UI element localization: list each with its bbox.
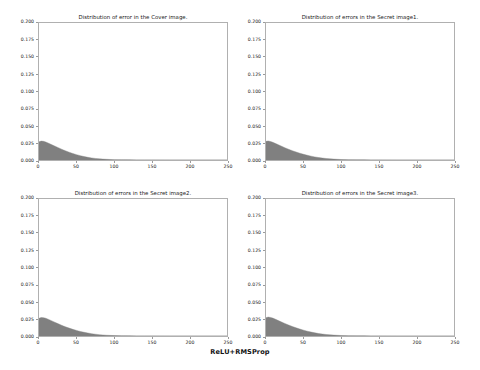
y-tick-label: 0.075: [237, 282, 261, 287]
y-tick-mark: [263, 302, 265, 303]
y-tick-mark: [263, 267, 265, 268]
x-tick-label: 200: [407, 340, 427, 345]
y-tick-mark: [263, 285, 265, 286]
figure-caption: ReLU+RMSProp: [0, 348, 480, 356]
x-tick-mark: [265, 337, 266, 339]
y-tick-label: 0.175: [237, 213, 261, 218]
y-tick-mark: [263, 250, 265, 251]
subplot-secret-image3: Distribution of errors in the Secret ima…: [0, 0, 480, 370]
x-tick-mark: [417, 337, 418, 339]
x-tick-label: 150: [369, 340, 389, 345]
x-tick-label: 50: [293, 340, 313, 345]
y-tick-mark: [263, 198, 265, 199]
x-tick-mark: [379, 337, 380, 339]
x-tick-mark: [341, 337, 342, 339]
plot-area: [265, 198, 455, 337]
y-tick-label: 0.025: [237, 317, 261, 322]
x-tick-label: 100: [331, 340, 351, 345]
y-tick-mark: [263, 232, 265, 233]
x-tick-mark: [455, 337, 456, 339]
y-tick-label: 0.100: [237, 265, 261, 270]
y-tick-label: 0.000: [237, 334, 261, 339]
figure-canvas: Distribution of error in the Cover image…: [0, 0, 480, 370]
x-tick-label: 250: [445, 340, 465, 345]
y-tick-label: 0.125: [237, 248, 261, 253]
subplot-title: Distribution of errors in the Secret ima…: [265, 190, 455, 197]
x-tick-label: 0: [255, 340, 275, 345]
y-tick-mark: [263, 319, 265, 320]
y-tick-mark: [263, 215, 265, 216]
y-tick-label: 0.200: [237, 195, 261, 200]
y-tick-label: 0.050: [237, 300, 261, 305]
histogram-area: [266, 199, 454, 336]
x-tick-mark: [303, 337, 304, 339]
y-tick-label: 0.150: [237, 230, 261, 235]
